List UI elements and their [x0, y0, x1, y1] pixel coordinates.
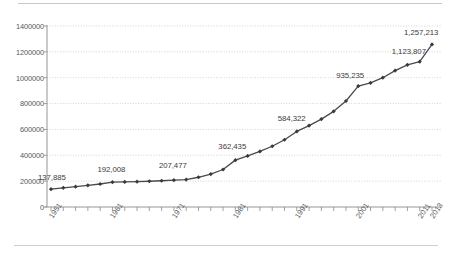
axis-lines	[45, 25, 441, 207]
gridlines	[47, 26, 441, 181]
data-point-value-label: 137,885	[38, 173, 66, 182]
y-axis-tick-label: 1200000	[0, 48, 44, 57]
data-point-marker	[160, 179, 164, 183]
data-point-marker	[86, 183, 90, 187]
data-point-marker	[135, 180, 139, 184]
data-point-marker	[147, 179, 151, 183]
data-point-marker	[49, 187, 53, 191]
data-point-marker	[196, 175, 200, 179]
data-point-marker	[405, 63, 409, 67]
data-point-marker	[123, 180, 127, 184]
data-point-value-label: 1,123,807	[392, 47, 426, 56]
y-axis-tick-label: 1400000	[0, 22, 44, 31]
y-axis-tick-label: 600000	[0, 125, 44, 134]
data-point-marker	[110, 180, 114, 184]
chart-page: 0200000400000600000800000100000012000001…	[0, 0, 450, 259]
data-point-value-label: 1,257,213	[404, 28, 438, 37]
data-point-marker	[258, 149, 262, 153]
data-point-marker	[98, 182, 102, 186]
line-chart: 0200000400000600000800000100000012000001…	[0, 0, 450, 259]
chart-canvas	[0, 0, 450, 259]
data-point-value-label: 192,008	[97, 165, 125, 174]
y-axis-tick-label: 800000	[0, 99, 44, 108]
y-axis-tick-label: 0	[0, 203, 44, 212]
y-axis-tick-label: 400000	[0, 151, 44, 160]
data-point-marker	[368, 81, 372, 85]
y-axis-tick-label: 1000000	[0, 74, 44, 83]
data-point-value-label: 584,322	[278, 114, 306, 123]
data-point-marker	[73, 185, 77, 189]
data-point-marker	[246, 154, 250, 158]
data-point-marker	[61, 186, 65, 190]
data-point-marker	[209, 172, 213, 176]
data-point-value-label: 362,435	[218, 142, 246, 151]
data-point-value-label: 935,235	[336, 71, 364, 80]
data-point-value-label: 207,477	[159, 161, 187, 170]
data-point-marker	[172, 178, 176, 182]
